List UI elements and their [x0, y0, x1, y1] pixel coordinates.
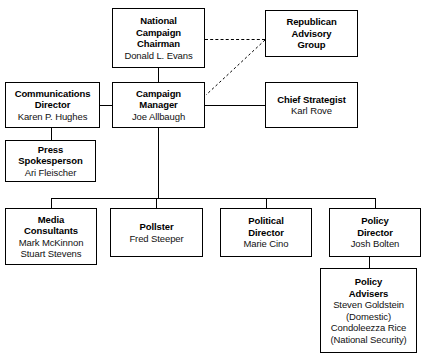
node-person: Josh Bolten [351, 238, 400, 250]
node-person: Karl Rove [291, 105, 332, 117]
node-person: Mark McKinnon Stuart Stevens [19, 237, 84, 260]
node-person: Karen P. Hughes [18, 111, 88, 123]
org-chart: National Campaign Chairman Donald L. Eva… [0, 0, 423, 363]
connector-communications-to-campaign-manager [100, 105, 112, 106]
node-person: Joe Allbaugh [132, 111, 185, 123]
node-campaign-manager[interactable]: Campaign Manager Joe Allbaugh [112, 82, 205, 128]
node-person: Ari Fleischer [25, 167, 77, 179]
node-republican-advisory-group[interactable]: Republican Advisory Group [265, 10, 358, 57]
connector-chairman-to-campaign-manager [158, 68, 159, 82]
node-title: National Campaign Chairman [136, 15, 181, 50]
node-pollster[interactable]: Pollster Fred Steeper [110, 208, 203, 257]
node-policy-director[interactable]: Policy Director Josh Bolten [329, 208, 421, 257]
node-person: Steven Goldstein (Domestic) Condoleezza … [330, 299, 406, 345]
connector-campaign-manager-to-chief-strategist [205, 105, 265, 106]
connector-bus-to-policy-director [375, 198, 376, 208]
node-communications-director[interactable]: Communications Director Karen P. Hughes [5, 82, 100, 128]
node-person: Donald L. Evans [124, 50, 192, 62]
node-title: Press Spokesperson [18, 144, 82, 167]
node-chief-strategist[interactable]: Chief Strategist Karl Rove [265, 82, 358, 128]
connector-bus-to-media-consultants [51, 198, 52, 208]
node-title: Chief Strategist [277, 94, 346, 106]
connector-advisory-group-to-campaign-manager-dashed [205, 39, 267, 97]
node-title: Political Director [248, 215, 284, 238]
connector-communications-to-press-spokesperson [51, 128, 52, 140]
node-title: Media Consultants [24, 214, 78, 237]
connector-bus-to-pollster [156, 198, 157, 208]
node-person: Marie Cino [244, 238, 289, 250]
node-title: Pollster [139, 221, 173, 233]
node-title: Policy Director [357, 215, 393, 238]
node-title: Policy Advisers [349, 276, 388, 299]
node-person: Fred Steeper [129, 233, 183, 245]
node-national-campaign-chairman[interactable]: National Campaign Chairman Donald L. Eva… [112, 8, 205, 68]
node-policy-advisers[interactable]: Policy Advisers Steven Goldstein (Domest… [320, 268, 417, 353]
connector-campaign-manager-to-bus [158, 128, 159, 199]
node-title: Communications Director [15, 88, 91, 111]
node-media-consultants[interactable]: Media Consultants Mark McKinnon Stuart S… [5, 208, 97, 265]
node-title: Republican Advisory Group [286, 16, 336, 51]
connector-bus-horizontal [51, 198, 376, 199]
connector-policy-director-to-policy-advisers [369, 257, 370, 268]
connector-bus-to-political-director [266, 198, 267, 208]
node-title: Campaign Manager [136, 88, 181, 111]
node-political-director[interactable]: Political Director Marie Cino [220, 208, 312, 257]
node-press-spokesperson[interactable]: Press Spokesperson Ari Fleischer [5, 140, 96, 182]
